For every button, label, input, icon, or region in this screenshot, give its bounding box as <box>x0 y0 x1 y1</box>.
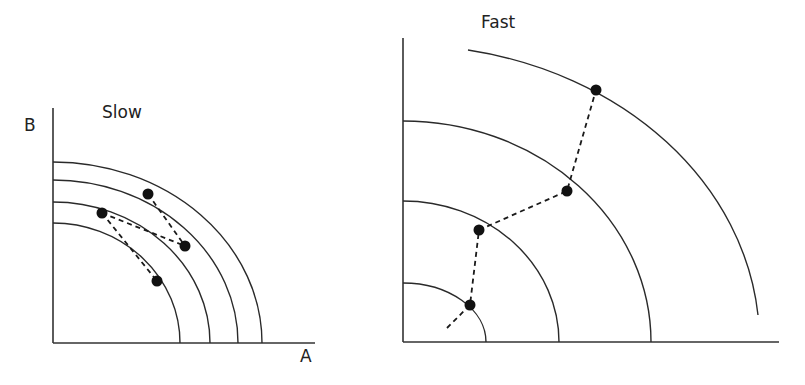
x-axis-label-a: A <box>300 346 312 366</box>
fast-point <box>474 225 485 236</box>
slow-point <box>143 189 154 200</box>
fast-frontier-1 <box>403 283 486 342</box>
slow-point <box>152 276 163 287</box>
slow-point <box>180 241 191 252</box>
panel-slow: Slow B A <box>24 102 315 366</box>
fast-frontier-4 <box>468 50 758 315</box>
slow-frontier-2 <box>53 202 210 343</box>
fast-point <box>591 85 602 96</box>
y-axis-label-b: B <box>24 115 36 135</box>
slow-path-segment <box>148 194 185 246</box>
diagram-canvas: Slow B A Fast <box>0 0 805 385</box>
slow-frontier-4 <box>53 162 262 343</box>
slow-point <box>97 208 108 219</box>
fast-path <box>447 90 596 328</box>
panel-fast-title: Fast <box>481 12 515 32</box>
panel-fast: Fast <box>403 12 779 342</box>
fast-point <box>562 186 573 197</box>
panel-slow-title: Slow <box>102 102 142 122</box>
fast-point <box>465 300 476 311</box>
fast-frontier-3 <box>403 121 651 342</box>
